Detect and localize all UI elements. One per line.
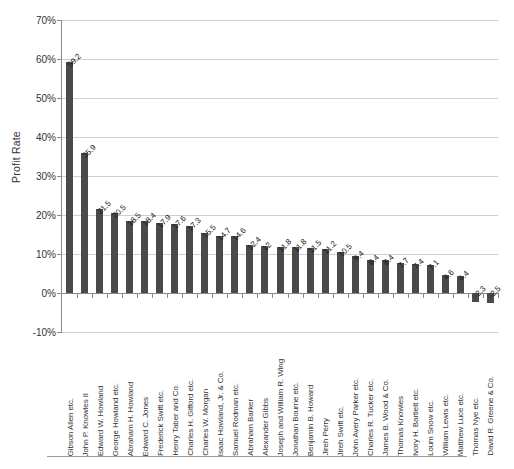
x-category-label: Matthew Luce etc.	[456, 393, 465, 456]
y-tick-mark	[57, 332, 62, 333]
x-category-label: Gibson Allen etc.	[66, 398, 75, 456]
x-category-label: Edward C. Jones	[141, 397, 150, 456]
x-tick-mark	[468, 293, 469, 298]
x-tick-mark	[257, 293, 258, 298]
x-tick-mark	[167, 293, 168, 298]
x-tick-mark	[483, 293, 484, 298]
x-tick-mark	[288, 293, 289, 298]
gridline	[62, 332, 498, 333]
bar[interactable]	[216, 236, 223, 293]
x-category-label: Jireh Perry	[321, 418, 330, 456]
x-category-label: Charles H. Gifford etc.	[186, 379, 195, 456]
bar[interactable]	[231, 236, 238, 293]
x-axis-category-labels: Gibson Allen etc.John P. Knowles IIEdwar…	[62, 336, 498, 456]
bar[interactable]	[186, 226, 193, 293]
bar[interactable]	[261, 246, 268, 293]
y-tick-label: 60%	[12, 54, 56, 65]
y-tick-label: 50%	[12, 93, 56, 104]
x-tick-mark	[227, 293, 228, 298]
x-tick-mark	[318, 293, 319, 298]
x-category-label: Abraham Barker	[246, 399, 255, 456]
y-axis-tick-labels: 70%60%50%40%30%20%10%0%-10%	[12, 0, 56, 469]
bar[interactable]	[156, 223, 163, 293]
x-tick-mark	[348, 293, 349, 298]
x-tick-mark	[107, 293, 108, 298]
x-category-label: Henry Taber and Co.	[171, 384, 180, 456]
x-tick-mark	[197, 293, 198, 298]
x-category-label: Jonathan Bourne etc.	[291, 382, 300, 456]
x-category-label: Isaac Howland, Jr. & Co.	[216, 371, 225, 456]
y-tick-label: 30%	[12, 171, 56, 182]
x-category-label: Jireh Swift etc.	[336, 406, 345, 456]
x-tick-mark	[152, 293, 153, 298]
bar[interactable]	[126, 221, 133, 293]
x-tick-mark	[182, 293, 183, 298]
x-category-label: Thomas Nye etc.	[471, 397, 480, 456]
y-tick-mark	[57, 137, 62, 138]
x-tick-mark	[333, 293, 334, 298]
y-tick-label: 10%	[12, 249, 56, 260]
bar[interactable]	[66, 62, 73, 293]
y-tick-label: 40%	[12, 132, 56, 143]
x-category-label: Loum Snow etc.	[426, 400, 435, 456]
x-tick-mark	[122, 293, 123, 298]
x-tick-mark	[303, 293, 304, 298]
bar-value-label: 14.6	[231, 226, 248, 243]
x-tick-mark	[453, 293, 454, 298]
bar-series: 59.235.921.520.518.518.417.917.617.315.5…	[62, 20, 498, 332]
y-tick-mark	[57, 254, 62, 255]
bar[interactable]	[141, 221, 148, 293]
x-category-label: Frederick Swift etc.	[156, 390, 165, 456]
y-tick-label: 20%	[12, 210, 56, 221]
x-category-label: Abraham H. Howland	[126, 382, 135, 456]
y-tick-label: -10%	[12, 327, 56, 338]
y-tick-mark	[57, 293, 62, 294]
x-category-label: Charles R. Tucker etc.	[366, 379, 375, 456]
x-category-label: Samuel Rodman etc.	[231, 383, 240, 456]
bottom-divider	[47, 456, 467, 457]
x-category-label: Alexander Gibbs	[261, 398, 270, 456]
y-tick-mark	[57, 59, 62, 60]
bar[interactable]	[111, 213, 118, 293]
x-category-label: David R. Greene & Co.	[486, 376, 495, 456]
x-tick-mark	[137, 293, 138, 298]
x-category-label: John P. Knowles II	[81, 393, 90, 456]
x-category-label: John Avery Parker etc.	[351, 378, 360, 456]
x-category-label: Ivory H. Bartlett etc.	[411, 388, 420, 456]
bar-value-label: 17.3	[186, 215, 203, 232]
x-tick-mark	[378, 293, 379, 298]
bar[interactable]	[96, 209, 103, 293]
bar[interactable]	[246, 245, 253, 293]
x-category-label: Thomas Knowles	[396, 396, 405, 456]
x-tick-mark	[408, 293, 409, 298]
x-tick-mark	[92, 293, 93, 298]
x-tick-mark	[363, 293, 364, 298]
y-tick-mark	[57, 176, 62, 177]
x-tick-mark	[498, 293, 499, 298]
x-category-label: James B. Wood & Co.	[381, 379, 390, 456]
profit-rate-bar-chart: Profit Rate 70%60%50%40%30%20%10%0%-10% …	[0, 0, 514, 469]
x-tick-mark	[272, 293, 273, 298]
x-tick-mark	[77, 293, 78, 298]
y-tick-mark	[57, 98, 62, 99]
plot-area: 59.235.921.520.518.518.417.917.617.315.5…	[62, 20, 498, 332]
bar[interactable]	[171, 224, 178, 293]
x-category-label: Joseph and William R. Wing	[276, 359, 285, 456]
y-tick-mark	[57, 20, 62, 21]
x-category-label: Benjamin B. Howard	[306, 385, 315, 456]
y-tick-label: 70%	[12, 15, 56, 26]
y-tick-label: 0%	[12, 288, 56, 299]
x-category-label: William Lewis etc.	[441, 394, 450, 456]
bar[interactable]	[81, 153, 88, 293]
x-tick-mark	[242, 293, 243, 298]
x-tick-mark	[438, 293, 439, 298]
x-tick-mark	[423, 293, 424, 298]
y-tick-mark	[57, 215, 62, 216]
x-tick-mark	[393, 293, 394, 298]
x-category-label: Edward W. Howland	[96, 386, 105, 456]
bar[interactable]	[201, 233, 208, 293]
x-category-label: George Howland etc.	[111, 383, 120, 456]
x-tick-mark	[212, 293, 213, 298]
x-category-label: Charles W. Morgan	[201, 389, 210, 456]
